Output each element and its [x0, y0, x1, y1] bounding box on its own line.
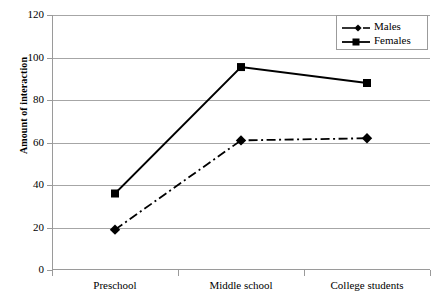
- x-tick-label: Preschool: [52, 279, 178, 291]
- grid-line: [53, 228, 430, 229]
- legend-label-males: Males: [371, 20, 401, 32]
- y-tick-label: 100: [4, 52, 44, 63]
- grid-line: [53, 100, 430, 101]
- x-tick-label: Middle school: [178, 279, 304, 291]
- y-tick-label: 20: [4, 222, 44, 233]
- males-line-marker-icon: [341, 20, 371, 32]
- grid-line: [53, 58, 430, 59]
- y-tick-label: 0: [4, 264, 44, 275]
- y-tick-label: 80: [4, 94, 44, 105]
- grid-line: [53, 185, 430, 186]
- y-tick-label: 120: [4, 9, 44, 20]
- legend-item-males: Males: [341, 19, 423, 33]
- x-tick-mark: [52, 270, 53, 276]
- females-line-marker-icon: [341, 34, 371, 46]
- chart-container: Amount of interaction 020406080100120 Pr…: [0, 0, 442, 304]
- legend-label-females: Females: [371, 34, 411, 46]
- x-tick-mark: [304, 270, 305, 276]
- y-tick-label: 60: [4, 137, 44, 148]
- grid-line: [53, 143, 430, 144]
- legend-item-females: Females: [341, 33, 423, 47]
- legend: Males Females: [336, 15, 428, 50]
- x-tick-label: College students: [304, 279, 430, 291]
- y-tick-label: 40: [4, 179, 44, 190]
- x-tick-mark: [430, 270, 431, 276]
- x-tick-mark: [178, 270, 179, 276]
- plot-area: [52, 15, 430, 270]
